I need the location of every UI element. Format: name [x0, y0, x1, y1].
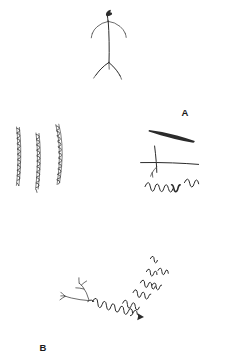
zigzag-segment	[145, 183, 173, 192]
basal-fork-left-tip	[94, 75, 96, 78]
dendrite-upper-branch-left	[76, 288, 84, 289]
panel-a-drawing	[70, 6, 160, 96]
dendrite-lower-stem	[65, 296, 89, 301]
basal-fork-right-tip	[120, 76, 121, 79]
panel-b-drawing	[6, 122, 84, 214]
cross-basal-branch	[151, 167, 157, 176]
panel-b-label: B	[35, 343, 51, 353]
tapered-stroke	[149, 130, 195, 143]
dendrite-upper-stem	[79, 283, 89, 300]
cross-basal-tip	[152, 173, 153, 178]
fragment-2	[133, 290, 151, 299]
figure-panel-grid: A B	[0, 0, 230, 363]
dendrite-lower-branch-down	[60, 296, 65, 299]
axon-terminal-segment	[130, 310, 137, 315]
basal-fork-right	[109, 63, 120, 76]
apical-bud-icon	[106, 10, 112, 16]
panel-c: C	[132, 122, 226, 204]
left-lateral-arm	[92, 22, 107, 34]
right-arm-tip	[125, 33, 126, 37]
fragment-5	[146, 269, 157, 276]
dendrite-upper-branch-right	[81, 281, 86, 285]
main-shaft	[108, 21, 109, 63]
fragment-7	[150, 256, 157, 263]
cross-horizontal	[141, 163, 199, 165]
beaded-strand-2	[36, 133, 41, 192]
panel-a: A	[70, 6, 160, 96]
axon-arrowhead-icon	[137, 313, 144, 320]
beaded-strand-3	[56, 124, 62, 184]
zigzag-segment-tail	[184, 179, 198, 187]
fragment-6	[158, 268, 168, 275]
beaded-strand-1	[16, 127, 20, 186]
panel-a-label: A	[177, 108, 193, 118]
panel-c-drawing	[132, 122, 226, 204]
panel-d: D	[40, 244, 190, 344]
panel-b: B	[6, 122, 84, 214]
basal-fork-left	[96, 62, 109, 75]
panel-d-drawing	[40, 244, 190, 344]
right-lateral-arm	[109, 21, 126, 33]
left-arm-tip	[91, 33, 92, 38]
